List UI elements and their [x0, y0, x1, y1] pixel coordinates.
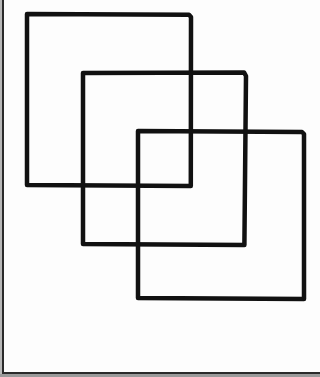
- square-3: [138, 131, 304, 299]
- diagram-canvas: [0, 0, 320, 377]
- square-1: [27, 14, 191, 186]
- square-2: [83, 72, 246, 245]
- squares-drawing: [0, 0, 320, 377]
